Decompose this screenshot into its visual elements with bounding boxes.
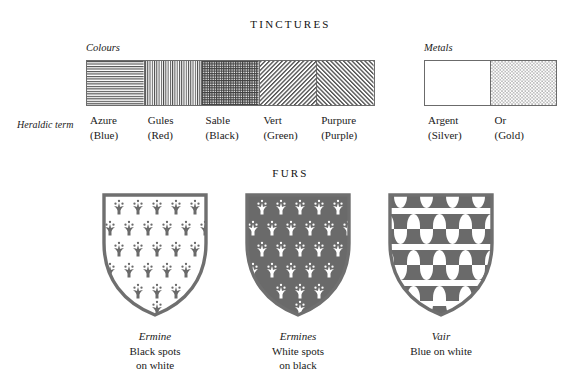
metals-swatch-bar [424, 60, 557, 106]
caption-vert: Vert (Green) [259, 113, 317, 143]
gloss-vert: (Green) [263, 128, 317, 143]
shield-ermine-icon [100, 191, 210, 319]
fur-desc-ermines-line1: White spots [223, 344, 373, 359]
term-or: Or [495, 113, 558, 128]
fur-name-ermine: Ermine [80, 329, 230, 344]
caption-azure: Azure (Blue) [86, 113, 144, 143]
heraldry-tinctures-figure: TINCTURES Colours Metals [0, 0, 581, 378]
colours-captions-row: Azure (Blue) Gules (Red) Sable (Black) V… [86, 113, 375, 143]
caption-argent: Argent (Silver) [424, 113, 491, 143]
fur-desc-ermine-line1: Black spots [80, 344, 230, 359]
fur-ermines [238, 191, 358, 319]
hatch-diagonal-sinister-icon [317, 61, 374, 105]
fur-vair [381, 191, 501, 319]
fur-ermine [95, 191, 215, 319]
swatch-or [491, 61, 556, 105]
furs-row [0, 191, 581, 331]
fur-desc-ermines-line2: on black [223, 358, 373, 373]
fur-name-vair: Vair [366, 329, 516, 344]
tinctures-heading: TINCTURES [0, 18, 581, 30]
caption-ermine: Ermine Black spots on white [80, 329, 230, 373]
furs-heading: FURS [0, 167, 581, 179]
gloss-azure: (Blue) [90, 128, 144, 143]
shield-vair-icon [386, 191, 496, 319]
hatch-crosshatch-icon [202, 61, 259, 105]
term-sable: Sable [206, 113, 260, 128]
swatch-gules [145, 61, 203, 105]
metals-captions-row: Argent (Silver) Or (Gold) [424, 113, 557, 143]
gloss-purpure: (Purple) [321, 128, 375, 143]
metals-group-label: Metals [424, 42, 453, 53]
swatch-dotted-icon [491, 61, 556, 105]
swatch-azure [87, 61, 145, 105]
caption-or: Or (Gold) [491, 113, 558, 143]
term-azure: Azure [90, 113, 144, 128]
fur-desc-vair-line1: Blue on white [366, 344, 516, 359]
fur-desc-ermine-line2: on white [80, 358, 230, 373]
swatch-sable [202, 61, 260, 105]
hatch-horizontal-icon [87, 61, 144, 105]
swatch-argent [425, 61, 491, 105]
gloss-sable: (Black) [206, 128, 260, 143]
hatch-vertical-icon [145, 61, 202, 105]
colours-group-label: Colours [86, 42, 120, 53]
caption-vair: Vair Blue on white [366, 329, 516, 358]
swatch-plain-icon [425, 61, 490, 105]
caption-gules: Gules (Red) [144, 113, 202, 143]
gloss-gules: (Red) [148, 128, 202, 143]
gloss-or: (Gold) [495, 128, 558, 143]
hatch-diagonal-bend-icon [260, 61, 317, 105]
caption-sable: Sable (Black) [202, 113, 260, 143]
swatch-vert [260, 61, 318, 105]
term-vert: Vert [263, 113, 317, 128]
gloss-argent: (Silver) [428, 128, 491, 143]
heraldic-term-label: Heraldic term [17, 119, 73, 130]
colours-swatch-bar [86, 60, 375, 106]
caption-ermines: Ermines White spots on black [223, 329, 373, 373]
shield-ermines-icon [243, 191, 353, 319]
fur-name-ermines: Ermines [223, 329, 373, 344]
term-purpure: Purpure [321, 113, 375, 128]
term-argent: Argent [428, 113, 491, 128]
term-gules: Gules [148, 113, 202, 128]
swatch-purpure [317, 61, 374, 105]
caption-purpure: Purpure (Purple) [317, 113, 375, 143]
